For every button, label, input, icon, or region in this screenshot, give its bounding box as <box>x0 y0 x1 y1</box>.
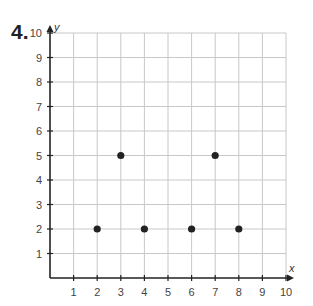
data-point <box>94 225 101 232</box>
x-tick-label: 10 <box>280 286 292 298</box>
x-tick-label: 2 <box>94 286 100 298</box>
x-tick-label: 7 <box>212 286 218 298</box>
data-point <box>188 225 195 232</box>
x-tick-label: 6 <box>189 286 195 298</box>
data-point <box>212 152 219 159</box>
tick-labels: 1234567891012345678910 <box>30 27 292 298</box>
y-tick-label: 7 <box>36 101 42 113</box>
scatter-plot: xy 1234567891012345678910 <box>0 0 313 306</box>
x-axis-label: x <box>288 262 295 274</box>
y-tick-label: 6 <box>36 125 42 137</box>
axes: xy <box>47 21 296 282</box>
y-tick-label: 10 <box>30 27 42 39</box>
data-point <box>235 225 242 232</box>
x-axis-arrow-icon <box>287 275 294 282</box>
x-tick-label: 8 <box>236 286 242 298</box>
y-tick-label: 4 <box>36 174 42 186</box>
x-tick-label: 1 <box>71 286 77 298</box>
y-axis-label: y <box>53 21 61 33</box>
y-tick-label: 2 <box>36 223 42 235</box>
y-tick-label: 3 <box>36 199 42 211</box>
x-tick-label: 9 <box>259 286 265 298</box>
y-tick-label: 9 <box>36 52 42 64</box>
y-tick-label: 5 <box>36 150 42 162</box>
data-point <box>117 152 124 159</box>
x-tick-label: 4 <box>141 286 147 298</box>
y-axis-arrow-icon <box>47 25 54 32</box>
x-tick-label: 5 <box>165 286 171 298</box>
y-tick-label: 8 <box>36 76 42 88</box>
x-tick-label: 3 <box>118 286 124 298</box>
grid-lines <box>50 33 286 278</box>
data-point <box>141 225 148 232</box>
y-tick-label: 1 <box>36 248 42 260</box>
